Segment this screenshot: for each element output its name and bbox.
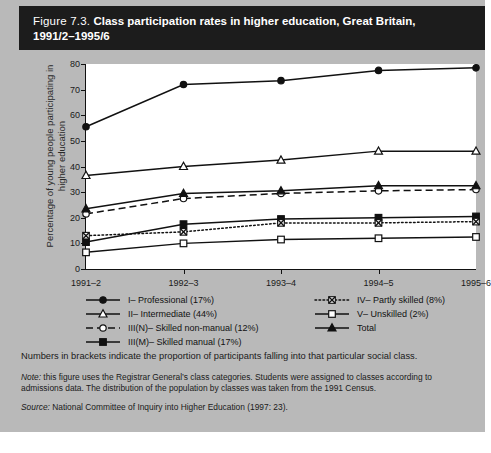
- note-label: Note:: [21, 372, 41, 382]
- data-point-marker: [375, 220, 382, 227]
- legend-symbol-skilled-manual: [85, 336, 121, 348]
- legend-symbol-unskilled: [314, 308, 350, 320]
- data-point-marker: [278, 77, 284, 83]
- legend-symbol-total: [314, 322, 350, 334]
- legend-column-right: IV– Partly skilled (8%)V– Unskilled (2%)…: [314, 293, 445, 335]
- x-tick-mark: [379, 269, 380, 274]
- legend-label: Total: [357, 323, 376, 333]
- legend-item-intermediate[interactable]: II– Intermediate (44%): [85, 307, 259, 321]
- legend-label: III(N)– Skilled non-manual (12%): [128, 323, 259, 333]
- x-tick-label: 1993–4: [266, 278, 296, 288]
- legend-item-partly-skilled[interactable]: IV– Partly skilled (8%): [314, 293, 445, 307]
- data-point-marker: [180, 240, 187, 247]
- legend-item-professional[interactable]: I– Professional (17%): [85, 293, 259, 307]
- series-markers-professional: [83, 65, 479, 130]
- note-body: this figure uses the Registrar General’s…: [21, 372, 432, 394]
- data-point-marker: [375, 235, 382, 242]
- figure-title-bar: Figure 7.3. Class participation rates in…: [19, 6, 485, 50]
- legend-label: III(M)– Skilled manual (17%): [128, 337, 242, 347]
- legend-item-skilled-manual[interactable]: III(M)– Skilled manual (17%): [85, 335, 259, 349]
- x-tick-label: 1992–3: [168, 278, 198, 288]
- series-layer: [86, 64, 476, 269]
- figure-title-years: 1991/2–1995/6: [33, 30, 110, 42]
- data-point-marker: [473, 234, 480, 241]
- data-point-marker: [180, 229, 187, 236]
- x-tick-label: 1995–6: [461, 278, 491, 288]
- figure-title: Class participation rates in higher educ…: [93, 15, 415, 27]
- x-tick-label: 1994–5: [363, 278, 393, 288]
- data-point-marker: [278, 236, 285, 243]
- data-point-marker: [83, 124, 89, 130]
- data-point-marker: [83, 249, 90, 256]
- data-point-marker: [100, 325, 106, 331]
- legend-symbol-skilled-non-manual: [85, 322, 121, 334]
- legend-item-total[interactable]: Total: [314, 321, 445, 335]
- series-line: [86, 68, 476, 127]
- note-text: Note: this figure uses the Registrar Gen…: [19, 372, 475, 395]
- plot-area: 01020304050607080 1991–21992–31993–41994…: [85, 64, 476, 270]
- data-point-marker: [329, 297, 336, 304]
- legend-item-skilled-non-manual[interactable]: III(N)– Skilled non-manual (12%): [85, 321, 259, 335]
- data-point-marker: [83, 232, 90, 239]
- data-point-marker: [473, 65, 479, 71]
- brackets-note: Numbers in brackets indicate the proport…: [19, 350, 475, 363]
- legend-item-unskilled[interactable]: V– Unskilled (2%): [314, 307, 445, 321]
- x-tick-mark: [281, 269, 282, 274]
- y-axis-label: Percentage of young people participating…: [44, 61, 68, 251]
- chart-legend: I– Professional (17%)II– Intermediate (4…: [19, 293, 485, 351]
- data-point-marker: [180, 221, 187, 228]
- legend-symbol-partly-skilled: [314, 294, 350, 306]
- figure-title-line-1: Figure 7.3. Class participation rates in…: [33, 14, 471, 29]
- chart-container: Percentage of young people participating…: [19, 56, 485, 296]
- data-point-marker: [180, 81, 186, 87]
- legend-label: I– Professional (17%): [128, 295, 214, 305]
- data-point-marker: [278, 220, 285, 227]
- legend-label: V– Unskilled (2%): [357, 309, 429, 319]
- series-professional: [86, 68, 476, 127]
- data-point-marker: [473, 218, 480, 225]
- figure-panel: Figure 7.3. Class participation rates in…: [0, 0, 485, 432]
- legend-label: II– Intermediate (44%): [128, 309, 217, 319]
- source-body: National Committee of Inquiry into Highe…: [50, 402, 288, 412]
- figure-notes: Numbers in brackets indicate the proport…: [19, 350, 475, 413]
- data-point-marker: [100, 339, 107, 346]
- figure-title-line-2: 1991/2–1995/6: [33, 29, 471, 44]
- y-tick-mark: [81, 269, 86, 270]
- data-point-marker: [100, 297, 106, 303]
- legend-column-left: I– Professional (17%)II– Intermediate (4…: [85, 293, 259, 349]
- legend-symbol-professional: [85, 294, 121, 306]
- data-point-marker: [83, 239, 90, 246]
- data-point-marker: [375, 67, 381, 73]
- x-tick-label: 1991–2: [71, 278, 101, 288]
- x-tick-mark: [184, 269, 185, 274]
- source-label: Source:: [21, 402, 50, 412]
- legend-symbol-intermediate: [85, 308, 121, 320]
- legend-label: IV– Partly skilled (8%): [357, 295, 445, 305]
- source-text: Source: National Committee of Inquiry in…: [19, 401, 475, 414]
- data-point-marker: [329, 311, 336, 318]
- figure-number: Figure 7.3.: [33, 15, 90, 27]
